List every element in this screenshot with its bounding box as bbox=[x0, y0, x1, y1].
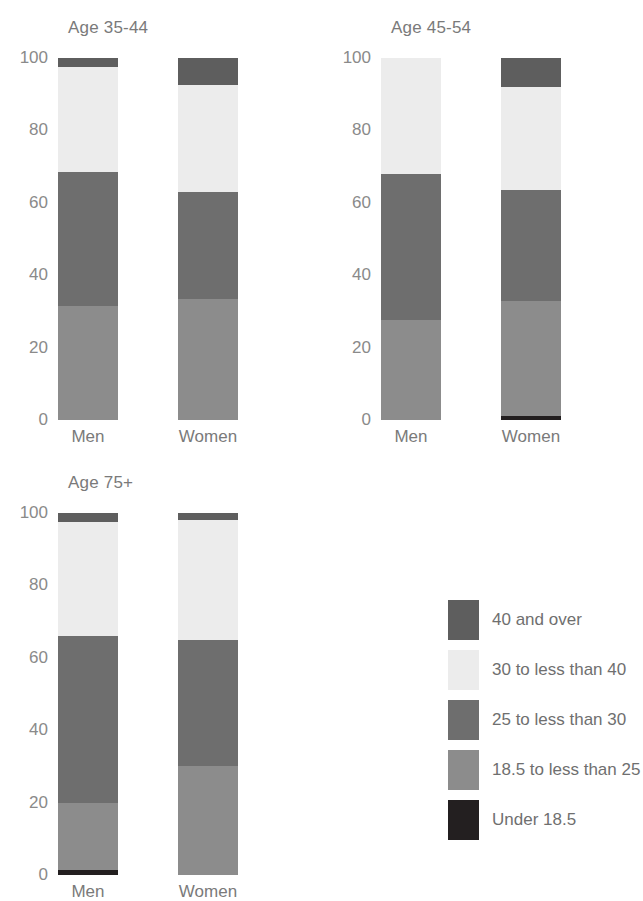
legend-label: 30 to less than 40 bbox=[492, 660, 626, 680]
legend-label: Under 18.5 bbox=[492, 810, 576, 830]
legend-label: 40 and over bbox=[492, 610, 582, 630]
legend-swatch bbox=[448, 650, 479, 690]
y-axis-tick-label: 100 bbox=[0, 48, 48, 68]
bar-segment-25-to-less-than-30 bbox=[178, 640, 238, 767]
legend-item: 25 to less than 30 bbox=[448, 700, 626, 740]
bar-segment-18-5-to-less-than-25 bbox=[178, 766, 238, 875]
bar-segment-40-and-over bbox=[501, 58, 561, 87]
x-axis-label-men: Men bbox=[71, 427, 104, 447]
y-axis-tick-label: 40 bbox=[0, 265, 48, 285]
legend-label: 18.5 to less than 25 bbox=[492, 760, 640, 780]
stacked-bar-women bbox=[178, 513, 238, 875]
y-axis-tick-label: 60 bbox=[323, 193, 371, 213]
y-axis-tick-label: 60 bbox=[0, 648, 48, 668]
bar-segment-30-to-less-than-40 bbox=[178, 85, 238, 192]
y-axis-tick-label: 20 bbox=[0, 338, 48, 358]
legend-swatch bbox=[448, 750, 479, 790]
bar-segment-40-and-over bbox=[178, 58, 238, 85]
x-axis-label-men: Men bbox=[71, 882, 104, 901]
bar-segment-40-and-over bbox=[178, 513, 238, 520]
bar-segment-25-to-less-than-30 bbox=[58, 172, 118, 306]
legend-item: Under 18.5 bbox=[448, 800, 576, 840]
y-axis-tick-label: 80 bbox=[0, 575, 48, 595]
legend-item: 30 to less than 40 bbox=[448, 650, 626, 690]
bar-segment-25-to-less-than-30 bbox=[178, 192, 238, 299]
bar-segment-30-to-less-than-40 bbox=[178, 520, 238, 639]
bar-segment-18-5-to-less-than-25 bbox=[501, 301, 561, 417]
bar-segment-30-to-less-than-40 bbox=[58, 522, 118, 636]
panel-title: Age 35-44 bbox=[68, 18, 148, 38]
y-axis-tick-label: 20 bbox=[0, 793, 48, 813]
y-axis-tick-label: 100 bbox=[323, 48, 371, 68]
bar-segment-18-5-to-less-than-25 bbox=[58, 803, 118, 870]
bar-segment-30-to-less-than-40 bbox=[501, 87, 561, 190]
legend-swatch bbox=[448, 600, 479, 640]
stacked-bar-men bbox=[381, 58, 441, 420]
chart-panel-age-45-54: Age 45-54020406080100MenWomen bbox=[323, 0, 643, 440]
y-axis-tick-label: 80 bbox=[323, 120, 371, 140]
bar-segment-30-to-less-than-40 bbox=[381, 58, 441, 174]
bar-segment-under-18-5 bbox=[501, 416, 561, 420]
y-axis-tick-label: 0 bbox=[0, 865, 48, 885]
bar-segment-18-5-to-less-than-25 bbox=[381, 320, 441, 420]
chart-panel-age-75: Age 75+020406080100MenWomen bbox=[0, 455, 320, 895]
legend-label: 25 to less than 30 bbox=[492, 710, 626, 730]
y-axis-tick-label: 40 bbox=[323, 265, 371, 285]
y-axis-tick-label: 100 bbox=[0, 503, 48, 523]
panel-title: Age 45-54 bbox=[391, 18, 471, 38]
bar-segment-under-18-5 bbox=[58, 870, 118, 875]
chart-panel-age-35-44: Age 35-44020406080100MenWomen bbox=[0, 0, 320, 440]
bar-segment-40-and-over bbox=[58, 513, 118, 522]
y-axis-tick-label: 60 bbox=[0, 193, 48, 213]
legend-item: 40 and over bbox=[448, 600, 582, 640]
x-axis-label-men: Men bbox=[394, 427, 427, 447]
bar-segment-25-to-less-than-30 bbox=[58, 636, 118, 803]
legend-swatch bbox=[448, 700, 479, 740]
y-axis-tick-label: 80 bbox=[0, 120, 48, 140]
bar-segment-25-to-less-than-30 bbox=[501, 190, 561, 300]
panel-title: Age 75+ bbox=[68, 473, 133, 493]
legend-item: 18.5 to less than 25 bbox=[448, 750, 640, 790]
bar-segment-30-to-less-than-40 bbox=[58, 67, 118, 172]
x-axis-label-women: Women bbox=[179, 427, 237, 447]
y-axis-tick-label: 40 bbox=[0, 720, 48, 740]
legend-swatch bbox=[448, 800, 479, 840]
y-axis-tick-label: 20 bbox=[323, 338, 371, 358]
x-axis-label-women: Women bbox=[179, 882, 237, 901]
stacked-bar-women bbox=[178, 58, 238, 420]
bar-segment-18-5-to-less-than-25 bbox=[58, 306, 118, 420]
bar-segment-25-to-less-than-30 bbox=[381, 174, 441, 321]
stacked-bar-women bbox=[501, 58, 561, 420]
y-axis-tick-label: 0 bbox=[0, 410, 48, 430]
bar-segment-18-5-to-less-than-25 bbox=[178, 299, 238, 420]
bar-segment-40-and-over bbox=[58, 58, 118, 67]
x-axis-label-women: Women bbox=[502, 427, 560, 447]
stacked-bar-men bbox=[58, 513, 118, 875]
stacked-bar-men bbox=[58, 58, 118, 420]
y-axis-tick-label: 0 bbox=[323, 410, 371, 430]
